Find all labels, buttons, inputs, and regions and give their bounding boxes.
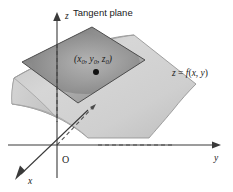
origin-label: O bbox=[62, 154, 69, 165]
eq-equals: = bbox=[176, 68, 186, 78]
x-axis-arrow bbox=[15, 166, 25, 180]
surface-equation-label: z = f(x, y) bbox=[171, 68, 208, 79]
y-axis-label: y bbox=[213, 153, 219, 163]
y-axis-arrow bbox=[212, 141, 221, 148]
z-axis-label: z bbox=[64, 11, 69, 21]
z-axis-arrow bbox=[53, 12, 61, 21]
tangency-point-dot bbox=[93, 69, 99, 75]
coord-close-paren: ) bbox=[108, 54, 112, 65]
svg-text:z = f(x, y): z = f(x, y) bbox=[171, 68, 208, 79]
eq-close-paren: ) bbox=[205, 68, 208, 79]
x-axis-label: x bbox=[27, 176, 33, 186]
figure-canvas: Tangent plane z y x O (x0, y0, z0) z = f… bbox=[0, 0, 233, 192]
tangent-plane-figure: Tangent plane z y x O (x0, y0, z0) z = f… bbox=[0, 0, 233, 192]
x-axis bbox=[21, 110, 88, 174]
tangent-plane-label: Tangent plane bbox=[73, 7, 133, 18]
